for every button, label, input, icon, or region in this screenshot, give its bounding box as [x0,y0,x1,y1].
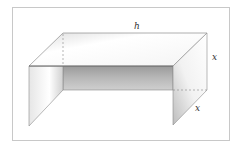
back-panel [63,66,173,90]
label-x-depth: x [195,103,200,113]
left-flap [29,66,63,126]
box-diagram: h x x [0,0,243,151]
label-x-height: x [212,52,217,62]
label-h: h [134,21,140,31]
